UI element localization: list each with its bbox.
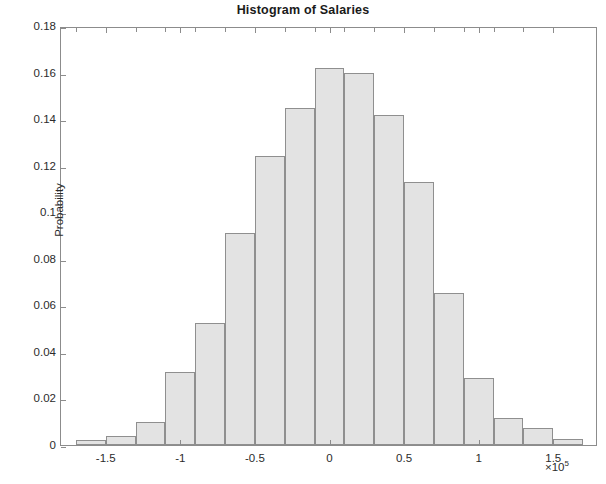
histogram-bar [285, 108, 315, 445]
x-axis-exponent-power: 5 [565, 459, 569, 468]
figure-canvas: Histogram of Salaries 00.020.040.060.080… [0, 0, 606, 484]
y-axis-tick-label: 0.12 [1, 160, 56, 172]
x-axis-tick-mark [553, 440, 554, 445]
histogram-bar [165, 372, 195, 445]
x-axis-minor-tick-top [553, 28, 554, 32]
y-axis-tick-mark [61, 28, 66, 29]
x-axis-tick-mark [180, 440, 181, 445]
y-axis-tick-mark [61, 400, 66, 401]
x-axis-minor-tick-top [255, 28, 256, 32]
y-axis-tick-mark [61, 447, 66, 448]
x-axis-minor-tick-top [523, 28, 524, 32]
x-axis-minor-tick-top [136, 28, 137, 32]
x-axis-tick-label: 1 [449, 452, 509, 464]
histogram-bar [76, 440, 106, 445]
histogram-bars [61, 28, 596, 445]
histogram-bar [136, 422, 166, 445]
x-axis-minor-tick-top [106, 28, 107, 32]
histogram-bar [434, 293, 464, 445]
x-axis-minor-tick-top [494, 28, 495, 32]
plot-area: 00.020.040.060.080.10.120.140.160.18 -1.… [60, 27, 597, 446]
chart-title: Histogram of Salaries [0, 3, 606, 17]
x-axis-exponent-text: ×10 [545, 461, 565, 473]
y-axis-tick-label: 0.08 [1, 253, 56, 265]
x-axis-minor-tick-top [76, 28, 77, 32]
y-axis-tick-label: 0.02 [1, 392, 56, 404]
x-axis-tick-mark-top [180, 28, 181, 33]
histogram-bar [225, 233, 255, 445]
x-axis-tick-mark [255, 440, 256, 445]
histogram-bar [523, 428, 553, 445]
x-axis-tick-mark-top [479, 28, 480, 33]
y-axis-tick-label: 0.06 [1, 299, 56, 311]
x-axis-tick-label: -1.5 [76, 452, 136, 464]
x-axis-tick-label: -0.5 [225, 452, 285, 464]
histogram-bar [464, 378, 494, 445]
x-axis-minor-tick-top [285, 28, 286, 32]
x-axis-tick-mark-top [330, 28, 331, 33]
histogram-bar [404, 182, 434, 445]
y-axis-label: Probability [53, 30, 65, 390]
x-axis-exponent-label: ×105 [545, 459, 569, 473]
x-axis-minor-tick-top [464, 28, 465, 32]
histogram-bar [494, 418, 524, 445]
x-axis-tick-mark [404, 440, 405, 445]
y-axis-tick-label: 0.16 [1, 67, 56, 79]
x-axis-minor-tick-top [374, 28, 375, 32]
y-axis-tick-label: 0.1 [1, 206, 56, 218]
histogram-bar [195, 323, 225, 445]
x-axis-minor-tick-top [195, 28, 196, 32]
x-axis-tick-mark [330, 440, 331, 445]
histogram-bar [106, 436, 136, 445]
y-axis-tick-label: 0.18 [1, 20, 56, 32]
x-axis-tick-mark [479, 440, 480, 445]
x-axis-tick-label: 0.5 [374, 452, 434, 464]
histogram-bar [255, 156, 285, 445]
x-axis-tick-mark [106, 440, 107, 445]
histogram-bar [374, 115, 404, 445]
x-axis-minor-tick-top [225, 28, 226, 32]
y-axis-tick-label: 0.04 [1, 346, 56, 358]
x-axis-minor-tick-top [315, 28, 316, 32]
histogram-bar [344, 73, 374, 445]
x-axis-minor-tick-top [434, 28, 435, 32]
x-axis-tick-label: 0 [300, 452, 360, 464]
y-axis-tick-label: 0 [1, 439, 56, 451]
histogram-bar [553, 439, 583, 445]
x-axis-minor-tick-top [404, 28, 405, 32]
x-axis-minor-tick-top [165, 28, 166, 32]
x-axis-minor-tick-top [344, 28, 345, 32]
x-axis-tick-label: -1 [150, 452, 210, 464]
y-axis-tick-label: 0.14 [1, 113, 56, 125]
histogram-bar [315, 68, 345, 445]
